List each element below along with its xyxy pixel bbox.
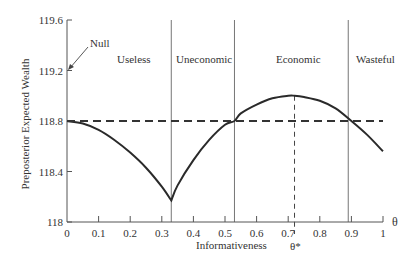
region-label-useless: Useless <box>117 53 151 65</box>
data-series <box>67 96 383 201</box>
x-tick-label: 0 <box>64 227 70 239</box>
y-tick-label: 119.2 <box>39 65 63 77</box>
region-label-wasteful: Wasteful <box>356 53 395 65</box>
x-tick-label: 0.2 <box>123 227 137 239</box>
x-axis-label: Informativeness <box>196 239 267 251</box>
x-tick-label: 0.9 <box>345 227 359 239</box>
y-tick-label: 118 <box>47 216 64 228</box>
x-tick-label: 0.1 <box>92 227 106 239</box>
chart-container: 118118.4118.8119.2119.600.10.20.30.40.50… <box>0 0 415 265</box>
x-tick-label: 0.8 <box>313 227 327 239</box>
y-tick-label: 118.4 <box>39 166 64 178</box>
x-tick-label: 0.3 <box>155 227 169 239</box>
region-label-uneconomic: Uneconomic <box>176 53 232 65</box>
x-tick-label: 1 <box>380 227 386 239</box>
region-label-economic: Economic <box>276 53 321 65</box>
x-tick-label: 0.6 <box>250 227 264 239</box>
theta-axis-symbol: θ <box>392 215 398 229</box>
null-annotation: Null <box>90 37 110 49</box>
y-tick-label: 119.6 <box>39 14 64 26</box>
y-axis-label: Preposterior Expected Wealth <box>19 58 31 189</box>
null-arrow-line <box>70 47 88 68</box>
x-tick-label: 0.7 <box>281 227 295 239</box>
wealth-curve <box>67 96 383 201</box>
y-tick-label: 118.8 <box>39 115 64 127</box>
text-layer: Null Useless Uneconomic Economic Wastefu… <box>19 37 398 252</box>
theta-star-label: θ* <box>290 240 301 252</box>
x-tick-label: 0.5 <box>218 227 232 239</box>
chart-svg: 118118.4118.8119.2119.600.10.20.30.40.50… <box>0 0 415 265</box>
x-tick-label: 0.4 <box>187 227 201 239</box>
